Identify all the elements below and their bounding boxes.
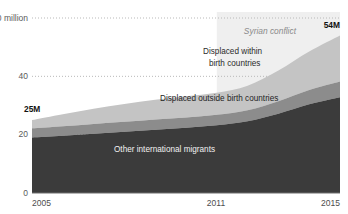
x-tick-label-2005: 2005 bbox=[32, 198, 51, 208]
y-tick-label-0: 0 bbox=[23, 188, 28, 198]
x-tick-label-2015: 2015 bbox=[321, 198, 340, 208]
y-tick-label-40: 40 bbox=[19, 71, 29, 81]
y-tick-label-20: 20 bbox=[19, 129, 29, 139]
x-tick-label-2011: 2011 bbox=[207, 198, 226, 208]
band-label-bottom: Other international migrants bbox=[114, 145, 215, 154]
stacked-area-chart: 60 million 40 20 0 2005 2011 2015 25M 54… bbox=[0, 0, 348, 214]
highlight-caption-label: Syrian conflict bbox=[244, 26, 297, 36]
chart-container: 60 million 40 20 0 2005 2011 2015 25M 54… bbox=[0, 0, 348, 214]
value-label-start: 25M bbox=[24, 104, 40, 114]
band-label-top-line1: Displaced within bbox=[203, 47, 263, 56]
y-tick-label-60: 60 million bbox=[0, 13, 28, 23]
value-label-end: 54M bbox=[324, 20, 340, 30]
band-label-middle: Displaced outside birth countries bbox=[160, 94, 278, 103]
band-label-top-line2: birth countries bbox=[209, 59, 260, 68]
